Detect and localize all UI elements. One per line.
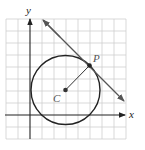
grid [6,19,126,139]
tangent-point [87,63,92,68]
tangent-line-lower [44,21,125,102]
radius-segment [66,66,90,91]
point-p-label: P [92,52,100,64]
tangent-line-diagram: y x P C [0,0,145,150]
point-c-label: C [53,92,61,104]
y-axis-label: y [25,4,31,16]
x-axis-label: x [128,108,134,120]
center-point [63,88,68,93]
